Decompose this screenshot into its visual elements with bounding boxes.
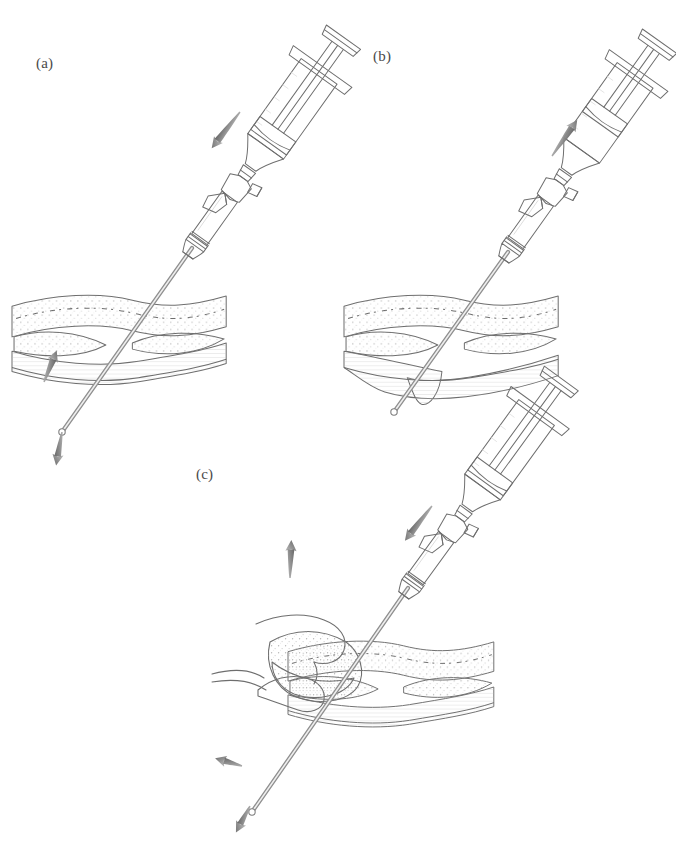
stopcock-wing-handle[interactable] <box>201 186 231 217</box>
three-way-stopcock <box>201 159 267 229</box>
stopcock-wing-handle[interactable] <box>517 190 547 221</box>
panel-label-b: (b) <box>373 48 391 65</box>
fascial-cavity-left <box>346 332 438 356</box>
dermis-layer <box>12 295 226 337</box>
needle-withdraw-arrow <box>51 431 68 466</box>
syringe-stopcock-cannula-assembly <box>475 20 676 280</box>
hand-grasping-tissue <box>212 615 362 711</box>
panel-c <box>160 440 560 860</box>
plunger-depress-arrow <box>207 109 244 152</box>
muscle-fascia-layer <box>344 351 558 404</box>
panel-label-a: (a) <box>36 55 53 72</box>
plunger-rod[interactable] <box>272 41 343 133</box>
fascial-cavity-left <box>14 332 106 356</box>
needle-retract-arrow <box>214 753 244 771</box>
panel-b <box>336 0 676 470</box>
plunger-stopper <box>582 98 627 137</box>
needle-tip <box>391 409 397 415</box>
needle-tip <box>249 809 255 815</box>
fascial-cavity-right <box>464 333 556 354</box>
figure-canvas: (a)(b)(c) <box>0 0 676 860</box>
syringe <box>537 20 676 192</box>
thumb-rest[interactable] <box>637 29 676 62</box>
stopcock-wing-handle[interactable] <box>417 526 447 557</box>
tissue-cross-section <box>344 295 558 404</box>
tissue-lift-arrow <box>284 540 297 578</box>
needle-withdraw-arrow <box>231 803 255 835</box>
plunger-aspirate-arrow <box>547 117 581 159</box>
three-way-stopcock <box>417 499 483 569</box>
tissue-cross-section <box>12 295 226 384</box>
plunger-depress-arrow <box>400 503 436 545</box>
panel-label-c: (c) <box>196 466 213 483</box>
three-way-stopcock <box>517 163 583 233</box>
syringe-barrel <box>564 63 653 163</box>
